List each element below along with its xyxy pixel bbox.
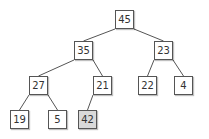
tree-edge — [134, 29, 164, 41]
tree-node: 5 — [48, 110, 67, 129]
tree-node-highlighted: 42 — [78, 110, 97, 129]
tree-node: 21 — [93, 76, 112, 95]
tree-node: 27 — [29, 76, 48, 95]
tree-edge — [20, 95, 30, 110]
tree-edge — [39, 60, 75, 76]
tree-node: 22 — [138, 76, 157, 95]
tree-node: 45 — [115, 10, 134, 29]
tree-edge — [148, 60, 155, 76]
tree-edge — [88, 95, 94, 110]
tree-edge — [93, 60, 103, 76]
tree-edges — [0, 0, 209, 139]
tree-node: 19 — [10, 110, 29, 129]
tree-edge — [48, 95, 58, 110]
tree-edge — [84, 29, 116, 41]
tree-node: 35 — [74, 41, 93, 60]
tree-diagram: 453523272122419542 — [0, 0, 209, 139]
tree-edge — [173, 60, 184, 76]
tree-node: 4 — [174, 76, 193, 95]
tree-node: 23 — [154, 41, 173, 60]
